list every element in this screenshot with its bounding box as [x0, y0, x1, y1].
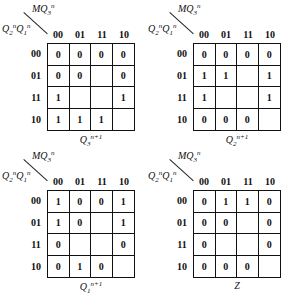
kmap-cell: 1	[113, 87, 135, 109]
column-header: 10	[113, 176, 135, 187]
row-header: 10	[26, 109, 46, 131]
column-header: 10	[259, 29, 281, 40]
kmap-cell: 0	[70, 213, 92, 235]
kmap-cell: 1	[70, 109, 92, 131]
column-header: 00	[47, 29, 69, 40]
kmap-q3-next: MQ3nQ2nQ1n0001111000011110000000011111Q3…	[0, 0, 146, 147]
column-header: 11	[237, 29, 259, 40]
column-variable-label: MQ3n	[32, 149, 55, 164]
row-headers: 00011110	[172, 190, 192, 278]
column-header: 10	[113, 29, 135, 40]
kmap-cell: 0	[216, 44, 238, 66]
column-header: 00	[47, 176, 69, 187]
column-variable-label: MQ3n	[178, 149, 201, 164]
kmap-cell: 0	[259, 234, 281, 256]
column-header: 01	[69, 176, 91, 187]
row-header: 01	[172, 212, 192, 234]
column-header: 01	[69, 29, 91, 40]
kmap-cell: 0	[70, 191, 92, 213]
kmap-cell: 1	[113, 191, 135, 213]
kmap-cell: 0	[91, 191, 113, 213]
kmap-cell	[113, 256, 135, 278]
kmap-cell: 1	[259, 66, 281, 88]
kmap-cell: 1	[48, 109, 70, 131]
row-header: 10	[172, 109, 192, 131]
kmap-cell	[91, 66, 113, 88]
kmap-cell: 0	[259, 44, 281, 66]
row-header: 00	[172, 43, 192, 65]
kmap-cell	[237, 66, 259, 88]
kmap-cell: 0	[194, 256, 216, 278]
row-header: 01	[26, 212, 46, 234]
column-variable-label: MQ3n	[178, 2, 201, 17]
kmap-caption: Q1n+1	[47, 280, 135, 294]
row-headers: 00011110	[172, 43, 192, 131]
kmap-cell: 1	[194, 87, 216, 109]
row-header: 00	[172, 190, 192, 212]
kmap-cell: 0	[216, 213, 238, 235]
column-header: 00	[193, 176, 215, 187]
kmap-cell: 0	[91, 256, 113, 278]
row-headers: 00011110	[26, 190, 46, 278]
kmap-cell: 0	[259, 213, 281, 235]
kmap-cell: 1	[48, 87, 70, 109]
kmap-cell	[237, 87, 259, 109]
kmap-q2-next: MQ3nQ2nQ1n0001111000011110000011111000Q2…	[146, 0, 292, 147]
kmap-cell: 0	[216, 109, 238, 131]
kmap-cell: 1	[216, 191, 238, 213]
kmap-cell: 0	[70, 66, 92, 88]
row-header: 01	[172, 65, 192, 87]
kmap-cell: 1	[91, 109, 113, 131]
kmap-cell: 0	[48, 66, 70, 88]
row-variable-label: Q2nQ1n	[148, 22, 176, 37]
column-headers: 00011110	[47, 29, 135, 40]
kmap-cell: 0	[194, 44, 216, 66]
row-variable-label: Q2nQ1n	[2, 22, 30, 37]
row-header: 11	[26, 87, 46, 109]
column-header: 10	[259, 176, 281, 187]
kmap-cell: 0	[237, 44, 259, 66]
kmap-cell: 1	[216, 66, 238, 88]
column-header: 00	[193, 29, 215, 40]
row-header: 00	[26, 190, 46, 212]
kmap-cell	[259, 109, 281, 131]
kmap-cell: 1	[48, 213, 70, 235]
kmap-grid: 011000000000	[193, 190, 281, 278]
kmap-cell: 1	[259, 87, 281, 109]
column-headers: 00011110	[193, 176, 281, 187]
column-variable-label: MQ3n	[32, 2, 55, 17]
row-header: 11	[172, 87, 192, 109]
kmap-grid: 000000011111	[47, 43, 135, 131]
kmap-cell	[91, 234, 113, 256]
kmap-cell: 0	[113, 234, 135, 256]
column-header: 11	[237, 176, 259, 187]
row-headers: 00011110	[26, 43, 46, 131]
kmap-cell	[70, 87, 92, 109]
row-header: 01	[26, 65, 46, 87]
kmap-z: MQ3nQ2nQ1n0001111000011110011000000000Z	[146, 147, 292, 294]
kmap-cell: 1	[70, 256, 92, 278]
column-headers: 00011110	[47, 176, 135, 187]
kmap-cell: 0	[194, 109, 216, 131]
kmap-caption: Z	[193, 280, 281, 291]
kmap-cell	[237, 234, 259, 256]
kmap-cell: 0	[48, 256, 70, 278]
kmap-cell: 0	[259, 191, 281, 213]
kmap-cell	[70, 234, 92, 256]
kmap-cell: 0	[237, 256, 259, 278]
row-variable-label: Q2nQ1n	[2, 169, 30, 184]
kmap-cell	[91, 87, 113, 109]
kmap-cell	[91, 213, 113, 235]
row-header: 10	[172, 256, 192, 278]
column-headers: 00011110	[193, 29, 281, 40]
kmap-cell: 0	[216, 256, 238, 278]
kmap-cell: 0	[194, 234, 216, 256]
kmap-cell: 0	[194, 191, 216, 213]
column-header: 01	[215, 29, 237, 40]
kmap-grid: 100110100010	[47, 190, 135, 278]
column-header: 11	[91, 29, 113, 40]
row-header: 10	[26, 256, 46, 278]
kmap-cell: 1	[194, 66, 216, 88]
row-variable-label: Q2nQ1n	[148, 169, 176, 184]
kmap-q1-next: MQ3nQ2nQ1n0001111000011110100110100010Q1…	[0, 147, 146, 294]
